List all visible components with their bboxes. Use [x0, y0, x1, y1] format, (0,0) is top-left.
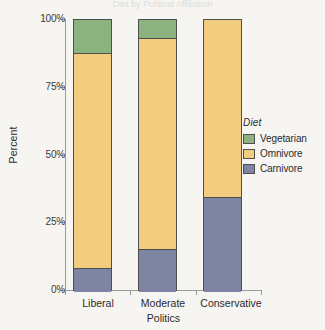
- legend-label: Carnivore: [260, 163, 302, 174]
- legend-label: Omnivore: [260, 148, 303, 159]
- y-tick-label: 0%: [19, 284, 65, 295]
- segment-divider: [204, 197, 241, 198]
- bar-group-conservative: [203, 0, 242, 330]
- x-tick-mark: [196, 290, 197, 295]
- legend-swatch-icon: [243, 149, 255, 159]
- stacked-bar-moderate[interactable]: [138, 19, 177, 291]
- x-tick-mark: [261, 290, 262, 295]
- chart-figure: Diet by Political Affiliation 100% 75% 5…: [0, 0, 325, 330]
- y-tick-25: 25%: [0, 222, 65, 223]
- x-tick-mark: [65, 290, 66, 295]
- segment-divider: [74, 268, 111, 269]
- bar-segment-omnivore[interactable]: [139, 38, 176, 249]
- y-axis-title: Percent: [7, 105, 19, 185]
- y-tick-label: 100%: [19, 13, 65, 24]
- x-tick-mark: [130, 290, 131, 295]
- y-axis-line: [65, 19, 66, 291]
- segment-divider: [74, 53, 111, 54]
- y-tick-label: 50%: [19, 149, 65, 160]
- y-tick-75: 75%: [0, 87, 65, 88]
- y-tick-label: 25%: [19, 216, 65, 227]
- bar-segment-carnivore[interactable]: [204, 197, 241, 292]
- legend-item-vegetarian[interactable]: Vegetarian: [243, 133, 323, 144]
- legend-item-carnivore[interactable]: Carnivore: [243, 163, 323, 174]
- y-tick-0: 0%: [0, 290, 65, 291]
- legend-item-omnivore[interactable]: Omnivore: [243, 148, 323, 159]
- legend: Diet Vegetarian Omnivore Carnivore: [243, 117, 323, 178]
- legend-swatch-icon: [243, 134, 255, 144]
- legend-swatch-icon: [243, 164, 255, 174]
- bar-segment-vegetarian[interactable]: [139, 20, 176, 38]
- x-label-liberal: Liberal: [63, 297, 133, 309]
- bar-group-liberal: [73, 0, 112, 330]
- segment-divider: [139, 249, 176, 250]
- x-axis-title: Politics: [65, 312, 262, 324]
- bar-group-moderate: [138, 0, 177, 330]
- bar-segment-omnivore[interactable]: [74, 53, 111, 268]
- legend-title: Diet: [243, 117, 323, 128]
- bar-segment-carnivore[interactable]: [74, 268, 111, 292]
- plot-area: 100% 75% 50% 25% 0% Percent: [0, 0, 325, 330]
- bar-segment-vegetarian[interactable]: [74, 20, 111, 53]
- legend-label: Vegetarian: [260, 133, 307, 144]
- y-tick-label: 75%: [19, 81, 65, 92]
- stacked-bar-conservative[interactable]: [203, 19, 242, 291]
- y-tick-100: 100%: [0, 19, 65, 20]
- segment-divider: [139, 38, 176, 39]
- stacked-bar-liberal[interactable]: [73, 19, 112, 291]
- x-label-conservative: Conservative: [188, 297, 274, 309]
- bar-segment-carnivore[interactable]: [139, 249, 176, 292]
- bar-segment-omnivore[interactable]: [204, 20, 241, 197]
